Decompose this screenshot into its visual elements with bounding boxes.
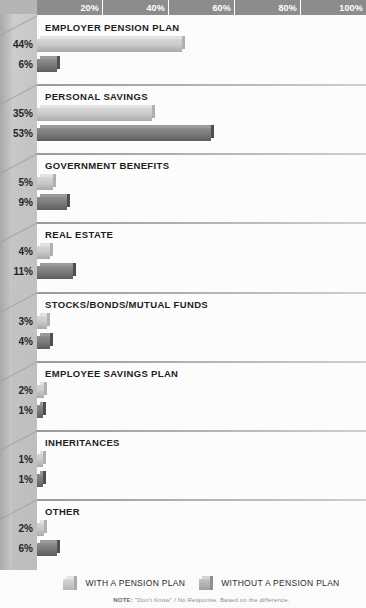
bar-without-pension [37, 543, 57, 556]
bar-row [37, 193, 366, 211]
bar-value-label: 2% [0, 523, 37, 534]
group-divider [37, 222, 366, 224]
bar-value-label: 9% [0, 197, 37, 208]
category-label: GOVERNMENT BENEFITS [45, 160, 169, 171]
bar-row [37, 470, 366, 488]
category-label: REAL ESTATE [45, 229, 113, 240]
axis-tick-3: 80% [235, 0, 301, 15]
bar-row [37, 173, 366, 191]
x-axis-header: 20% 40% 60% 80% 100% [37, 0, 366, 15]
category-label: STOCKS/BONDS/MUTUAL FUNDS [45, 299, 208, 310]
axis-tick-2: 60% [169, 0, 235, 15]
legend-label: WITHOUT A PENSION PLAN [221, 578, 339, 588]
legend-swatch-icon [63, 576, 78, 590]
footnote-text: "Don't Know" / No Response. Based on the… [135, 597, 290, 603]
bar-with-pension [37, 316, 47, 329]
legend-item-with-pension: WITH A PENSION PLAN [63, 576, 185, 590]
group-divider [37, 292, 366, 294]
bar-value-label: 11% [0, 266, 37, 277]
bar-without-pension [37, 59, 57, 72]
bar-with-pension [37, 523, 44, 536]
wall-top-edge [0, 0, 37, 14]
chart-footnote: NOTE: "Don't Know" / No Response. Based … [37, 597, 366, 603]
bar-with-pension [37, 454, 43, 467]
bar-without-pension [37, 336, 50, 349]
category-group: REAL ESTATE [37, 222, 366, 291]
bar-row [37, 401, 366, 419]
legend-swatch-icon [199, 576, 214, 590]
bar-value-label: 6% [0, 59, 37, 70]
bar-row [37, 312, 366, 330]
category-group: OTHER [37, 499, 366, 568]
bar-value-label: 35% [0, 108, 37, 119]
chart-legend: WITH A PENSION PLAN WITHOUT A PENSION PL… [37, 570, 366, 596]
group-divider [37, 361, 366, 363]
bar-value-label: 3% [0, 316, 37, 327]
bar-row [37, 539, 366, 557]
bar-with-pension [37, 246, 50, 259]
bar-with-pension [37, 385, 44, 398]
bar-row [37, 450, 366, 468]
bar-value-label: 53% [0, 128, 37, 139]
category-group: PERSONAL SAVINGS [37, 84, 366, 153]
bar-value-label: 1% [0, 405, 37, 416]
bar-without-pension [37, 266, 73, 279]
group-divider [37, 84, 366, 86]
bar-without-pension [37, 405, 43, 418]
bar-row [37, 332, 366, 350]
bar-value-label: 4% [0, 246, 37, 257]
category-label: EMPLOYER PENSION PLAN [45, 22, 180, 33]
group-divider [37, 153, 366, 155]
legend-label: WITH A PENSION PLAN [85, 578, 185, 588]
plot-area: EMPLOYER PENSION PLANPERSONAL SAVINGSGOV… [37, 15, 366, 568]
bar-value-label: 6% [0, 543, 37, 554]
bar-row [37, 124, 366, 142]
category-group: INHERITANCES [37, 430, 366, 499]
bar-value-label: 2% [0, 385, 37, 396]
axis-tick-1: 40% [103, 0, 169, 15]
bar-value-label: 44% [0, 39, 37, 50]
bar-value-label: 1% [0, 454, 37, 465]
bar-row [37, 104, 366, 122]
bar-with-pension [37, 39, 182, 52]
footnote-prefix: NOTE: [113, 597, 133, 603]
category-group: EMPLOYEE SAVINGS PLAN [37, 361, 366, 430]
legend-item-without-pension: WITHOUT A PENSION PLAN [199, 576, 339, 590]
category-label: PERSONAL SAVINGS [45, 91, 148, 102]
category-label: INHERITANCES [45, 437, 120, 448]
bar-value-label: 1% [0, 474, 37, 485]
bar-row [37, 262, 366, 280]
bar-without-pension [37, 474, 43, 487]
bar-row [37, 381, 366, 399]
axis-tick-4: 100% [301, 0, 366, 15]
category-label: OTHER [45, 506, 80, 517]
group-divider [37, 499, 366, 501]
bar-row [37, 55, 366, 73]
category-group: GOVERNMENT BENEFITS [37, 153, 366, 222]
bar-row [37, 35, 366, 53]
bar-without-pension [37, 128, 211, 141]
bar-row [37, 242, 366, 260]
category-group: EMPLOYER PENSION PLAN [37, 15, 366, 84]
bar-with-pension [37, 108, 152, 121]
bar-chart: 20% 40% 60% 80% 100% EMPLOYER PENSION PL… [0, 0, 366, 608]
bar-row [37, 519, 366, 537]
bar-with-pension [37, 177, 53, 190]
axis-tick-0: 20% [37, 0, 103, 15]
group-divider [37, 430, 366, 432]
category-label: EMPLOYEE SAVINGS PLAN [45, 368, 178, 379]
bar-value-label: 5% [0, 177, 37, 188]
category-group: STOCKS/BONDS/MUTUAL FUNDS [37, 292, 366, 361]
bar-without-pension [37, 197, 67, 210]
bar-value-label: 4% [0, 336, 37, 347]
